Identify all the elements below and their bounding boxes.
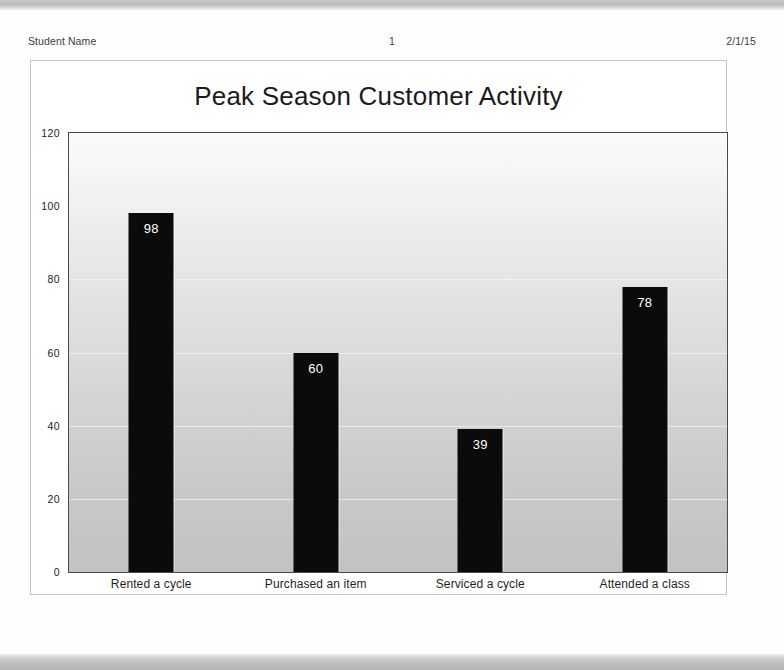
bar[interactable]: 60: [293, 353, 338, 573]
bar-value-label: 78: [622, 295, 667, 310]
page-edge-top: [0, 0, 784, 10]
bar-value-label: 98: [129, 221, 174, 236]
document-sheet: Student Name 1 2/1/15 Peak Season Custom…: [0, 10, 784, 654]
bar-slot: 78: [563, 133, 728, 572]
bar-slot: 60: [234, 133, 399, 572]
y-axis-tick-label: 100: [41, 200, 60, 212]
chart-container: Peak Season Customer Activity 0204060801…: [30, 60, 727, 595]
x-axis-category-label: Attended a class: [600, 577, 690, 591]
page-edge-bottom: [0, 654, 784, 670]
chart-title: Peak Season Customer Activity: [31, 81, 726, 112]
y-axis-tick-label: 120: [41, 127, 60, 139]
y-axis: 020406080100120: [31, 132, 64, 573]
x-axis-category-label: Serviced a cycle: [436, 577, 525, 591]
y-axis-tick-label: 0: [54, 566, 60, 578]
bar-value-label: 39: [458, 437, 503, 452]
bar-slot: 39: [398, 133, 563, 572]
bar-series: 98603978: [69, 133, 727, 572]
x-axis-category-label: Purchased an item: [265, 577, 367, 591]
y-axis-tick-label: 60: [48, 347, 60, 359]
document-running-header: Student Name 1 2/1/15: [28, 32, 756, 50]
bar-value-label: 60: [293, 361, 338, 376]
bar[interactable]: 98: [129, 213, 174, 572]
y-axis-tick-label: 80: [48, 273, 60, 285]
y-axis-tick-label: 20: [48, 493, 60, 505]
y-axis-tick-label: 40: [48, 420, 60, 432]
bar[interactable]: 78: [622, 287, 667, 572]
x-axis-category-label: Rented a cycle: [111, 577, 192, 591]
bar[interactable]: 39: [458, 429, 503, 572]
bar-slot: 98: [69, 133, 234, 572]
x-axis: Rented a cyclePurchased an itemServiced …: [69, 577, 727, 597]
header-page-number: 1: [28, 35, 756, 47]
